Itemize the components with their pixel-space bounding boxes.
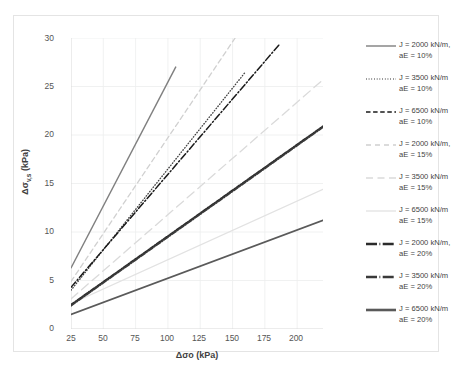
x-tick-75: 75: [120, 333, 150, 343]
legend-item-6[interactable]: J = 2000 kN/m,aE = 20%: [366, 238, 452, 262]
legend-item-label: J = 6500 kN/maE = 15%: [399, 205, 448, 226]
legend-item-3[interactable]: J = 2000 kN/m,aE = 15%: [366, 139, 452, 163]
legend-label-line1: J = 3500 kN/m: [399, 172, 448, 183]
series-line-4: [71, 80, 323, 299]
legend-line-swatch: [366, 172, 396, 186]
legend-item-label: J = 2000 kN/m,aE = 15%: [399, 139, 450, 160]
legend-line-swatch: [366, 40, 396, 54]
legend-item-5[interactable]: J = 6500 kN/maE = 15%: [366, 205, 452, 229]
x-tick-175: 175: [249, 333, 279, 343]
legend-label-line2: aE = 10%: [399, 84, 448, 95]
legend-label-line2: aE = 20%: [399, 249, 450, 260]
legend-item-label: J = 3500 kN/maE = 15%: [399, 172, 448, 193]
legend-label-line1: J = 2000 kN/m,: [399, 139, 450, 150]
legend-line-swatch: [366, 271, 396, 285]
y-tick-25: 25: [28, 81, 54, 91]
legend-label-line1: J = 6500 kN/m: [399, 106, 448, 117]
y-axis-title: Δσv,s (kPa): [20, 122, 32, 222]
legend-label-line2: aE = 20%: [399, 282, 448, 293]
legend-label-line1: J = 6500 kN/m: [399, 205, 448, 216]
legend-item-4[interactable]: J = 3500 kN/maE = 15%: [366, 172, 452, 196]
series-line-7: [71, 127, 323, 305]
legend-item-0[interactable]: J = 2000 kN/m,aE = 10%: [366, 40, 452, 64]
x-axis-title: Δσo (kPa): [71, 350, 323, 360]
y-tick-30: 30: [28, 33, 54, 43]
y-axis-title-unit: (kPa): [20, 149, 30, 174]
y-axis-title-main: Δσ: [20, 182, 30, 195]
legend-line-swatch: [366, 73, 396, 87]
legend-label-line1: J = 3500 kN/m: [399, 73, 448, 84]
legend-label-line1: J = 6500 kN/m: [399, 304, 448, 315]
legend-line-swatch: [366, 106, 396, 120]
series-line-0: [71, 67, 176, 268]
legend-item-7[interactable]: J = 3500 kN/maE = 20%: [366, 271, 452, 295]
legend-line-swatch: [366, 304, 396, 318]
x-tick-25: 25: [56, 333, 86, 343]
legend-label-line2: aE = 10%: [399, 51, 450, 62]
legend-label-line1: J = 2000 kN/m,: [399, 40, 450, 51]
y-tick-10: 10: [28, 226, 54, 236]
chart-screenshot: 30 25 20 15 10 5 0 25 50 75 100 125 150 …: [0, 0, 452, 372]
plot-area: [71, 38, 323, 329]
legend-label-line2: aE = 15%: [399, 183, 448, 194]
chart-container: 30 25 20 15 10 5 0 25 50 75 100 125 150 …: [13, 15, 439, 352]
x-tick-200: 200: [281, 333, 311, 343]
legend-line-swatch: [366, 238, 396, 252]
y-tick-5: 5: [28, 275, 54, 285]
x-tick-50: 50: [88, 333, 118, 343]
legend-label-line2: aE = 10%: [399, 117, 448, 128]
y-tick-0: 0: [28, 323, 54, 333]
series-line-5: [71, 189, 323, 303]
legend-item-8[interactable]: J = 6500 kN/maE = 20%: [366, 304, 452, 328]
y-axis-title-subscript: v,s: [25, 174, 32, 183]
series-line-3: [71, 38, 235, 281]
legend-label-line2: aE = 20%: [399, 315, 448, 326]
legend-item-1[interactable]: J = 3500 kN/maE = 10%: [366, 73, 452, 97]
x-tick-150: 150: [217, 333, 247, 343]
legend-item-label: J = 2000 kN/m,aE = 20%: [399, 238, 450, 259]
legend-item-label: J = 3500 kN/maE = 10%: [399, 73, 448, 94]
chart-legend: J = 2000 kN/m,aE = 10%J = 3500 kN/maE = …: [366, 40, 452, 337]
gridlines: [71, 38, 323, 329]
x-tick-125: 125: [184, 333, 214, 343]
series-line-8: [71, 220, 323, 314]
legend-label-line2: aE = 15%: [399, 150, 450, 161]
legend-item-label: J = 6500 kN/maE = 10%: [399, 106, 448, 127]
x-tick-100: 100: [152, 333, 182, 343]
legend-item-label: J = 6500 kN/maE = 20%: [399, 304, 448, 325]
series-canvas: [71, 38, 323, 329]
legend-label-line2: aE = 15%: [399, 216, 448, 227]
legend-label-line1: J = 3500 kN/m: [399, 271, 448, 282]
legend-item-2[interactable]: J = 6500 kN/maE = 10%: [366, 106, 452, 130]
legend-line-swatch: [366, 139, 396, 153]
legend-item-label: J = 2000 kN/m,aE = 10%: [399, 40, 450, 61]
legend-label-line1: J = 2000 kN/m,: [399, 238, 450, 249]
legend-item-label: J = 3500 kN/maE = 20%: [399, 271, 448, 292]
series-line-2: [71, 45, 279, 287]
legend-line-swatch: [366, 205, 396, 219]
